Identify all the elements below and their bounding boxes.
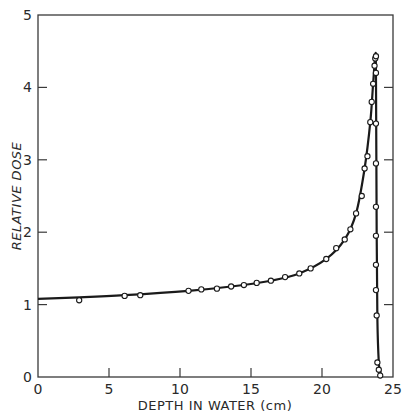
data-point (268, 278, 273, 283)
data-point (372, 63, 377, 68)
data-point (229, 284, 234, 289)
data-point (199, 287, 204, 292)
data-point (365, 154, 370, 159)
data-point (373, 70, 378, 75)
data-point (308, 266, 313, 271)
data-point (373, 233, 378, 238)
x-tick-label: 5 (105, 381, 114, 397)
data-point (373, 288, 378, 293)
data-point (77, 298, 82, 303)
x-tick-label: 15 (242, 381, 260, 397)
x-tick-label: 0 (34, 381, 43, 397)
x-axis-title: DEPTH IN WATER (cm) (138, 398, 292, 413)
x-tick-label: 25 (384, 381, 402, 397)
data-point (376, 367, 381, 372)
x-tick-label: 10 (171, 381, 189, 397)
data-point (378, 373, 383, 378)
data-point (186, 288, 191, 293)
y-tick-label: 4 (23, 79, 32, 95)
y-tick-label: 2 (23, 224, 32, 240)
data-point (375, 360, 380, 365)
y-tick-label: 1 (23, 297, 32, 313)
data-point (214, 286, 219, 291)
y-tick-labels: 012345 (23, 7, 32, 385)
bragg-peak-chart: 0510152025 012345 DEPTH IN WATER (cm) RE… (0, 0, 407, 415)
y-tick-label: 5 (23, 7, 32, 23)
data-point (138, 293, 143, 298)
data-point (373, 161, 378, 166)
x-tick-label: 20 (313, 381, 331, 397)
y-tick-label: 3 (23, 152, 32, 168)
data-point (334, 246, 339, 251)
x-tick-labels: 0510152025 (34, 381, 402, 397)
data-point (348, 227, 353, 232)
plot-frame (38, 15, 393, 377)
data-point (362, 166, 367, 171)
data-point (353, 211, 358, 216)
data-point (324, 256, 329, 261)
data-point (373, 262, 378, 267)
data-point (373, 121, 378, 126)
data-point (254, 280, 259, 285)
data-point (374, 313, 379, 318)
data-point (241, 282, 246, 287)
data-point (373, 204, 378, 209)
data-point (122, 293, 127, 298)
data-point (368, 120, 373, 125)
data-point (373, 54, 378, 59)
data-point (359, 193, 364, 198)
dose-curve (38, 53, 382, 377)
data-point (282, 274, 287, 279)
data-point (369, 99, 374, 104)
data-point-markers (77, 54, 383, 378)
data-point (342, 237, 347, 242)
data-point (371, 81, 376, 86)
y-axis-title: RELATIVE DOSE (9, 141, 24, 250)
data-point (297, 271, 302, 276)
axis-ticks (38, 87, 393, 377)
y-tick-label: 0 (23, 369, 32, 385)
